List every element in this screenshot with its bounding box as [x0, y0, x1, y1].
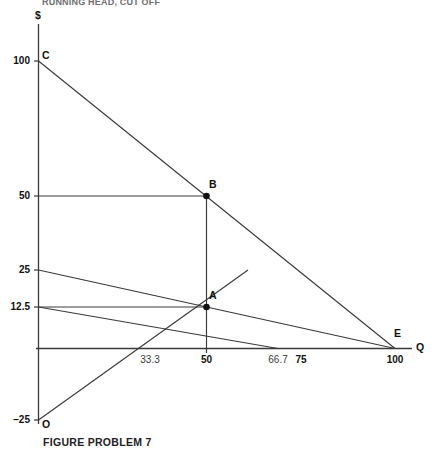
running-head: RUNNING HEAD, CUT OFF — [42, 0, 302, 9]
figure-caption: FIGURE PROBLEM 7 — [43, 436, 152, 448]
y-tick-label-25: 25 — [2, 265, 30, 275]
y-tick-label-12-5: 12.5 — [0, 302, 30, 312]
y-axis-title: $ — [35, 10, 41, 21]
series-lower-line-12-5 — [39, 307, 279, 349]
marker-point-B — [203, 193, 210, 200]
series-demand-line-C-E — [39, 61, 396, 349]
y-tick-label-minus-25: –25 — [0, 415, 30, 425]
chart-plot-area — [0, 0, 445, 458]
figure-problem-7: RUNNING HEAD, CUT OFF $ Q — [0, 0, 445, 458]
x-tick-label-50: 50 — [190, 355, 223, 365]
x-axis-title: Q — [416, 342, 424, 353]
point-label-C: C — [42, 50, 50, 61]
point-label-O: O — [42, 419, 50, 430]
x-tick-label-100: 100 — [378, 355, 412, 365]
y-tick-label-100: 100 — [2, 56, 30, 66]
y-tick-label-50: 50 — [2, 191, 30, 201]
point-label-A: A — [209, 290, 217, 301]
point-label-E: E — [394, 328, 401, 339]
series-marginal-revenue-line — [39, 270, 396, 349]
marker-point-A — [203, 304, 210, 311]
x-tick-label-33-3: 33.3 — [131, 355, 169, 365]
tick-marks-group — [34, 61, 207, 420]
series-group — [39, 61, 396, 420]
point-label-B: B — [209, 179, 217, 190]
axes-group — [36, 24, 412, 424]
x-tick-label-75: 75 — [286, 355, 316, 365]
